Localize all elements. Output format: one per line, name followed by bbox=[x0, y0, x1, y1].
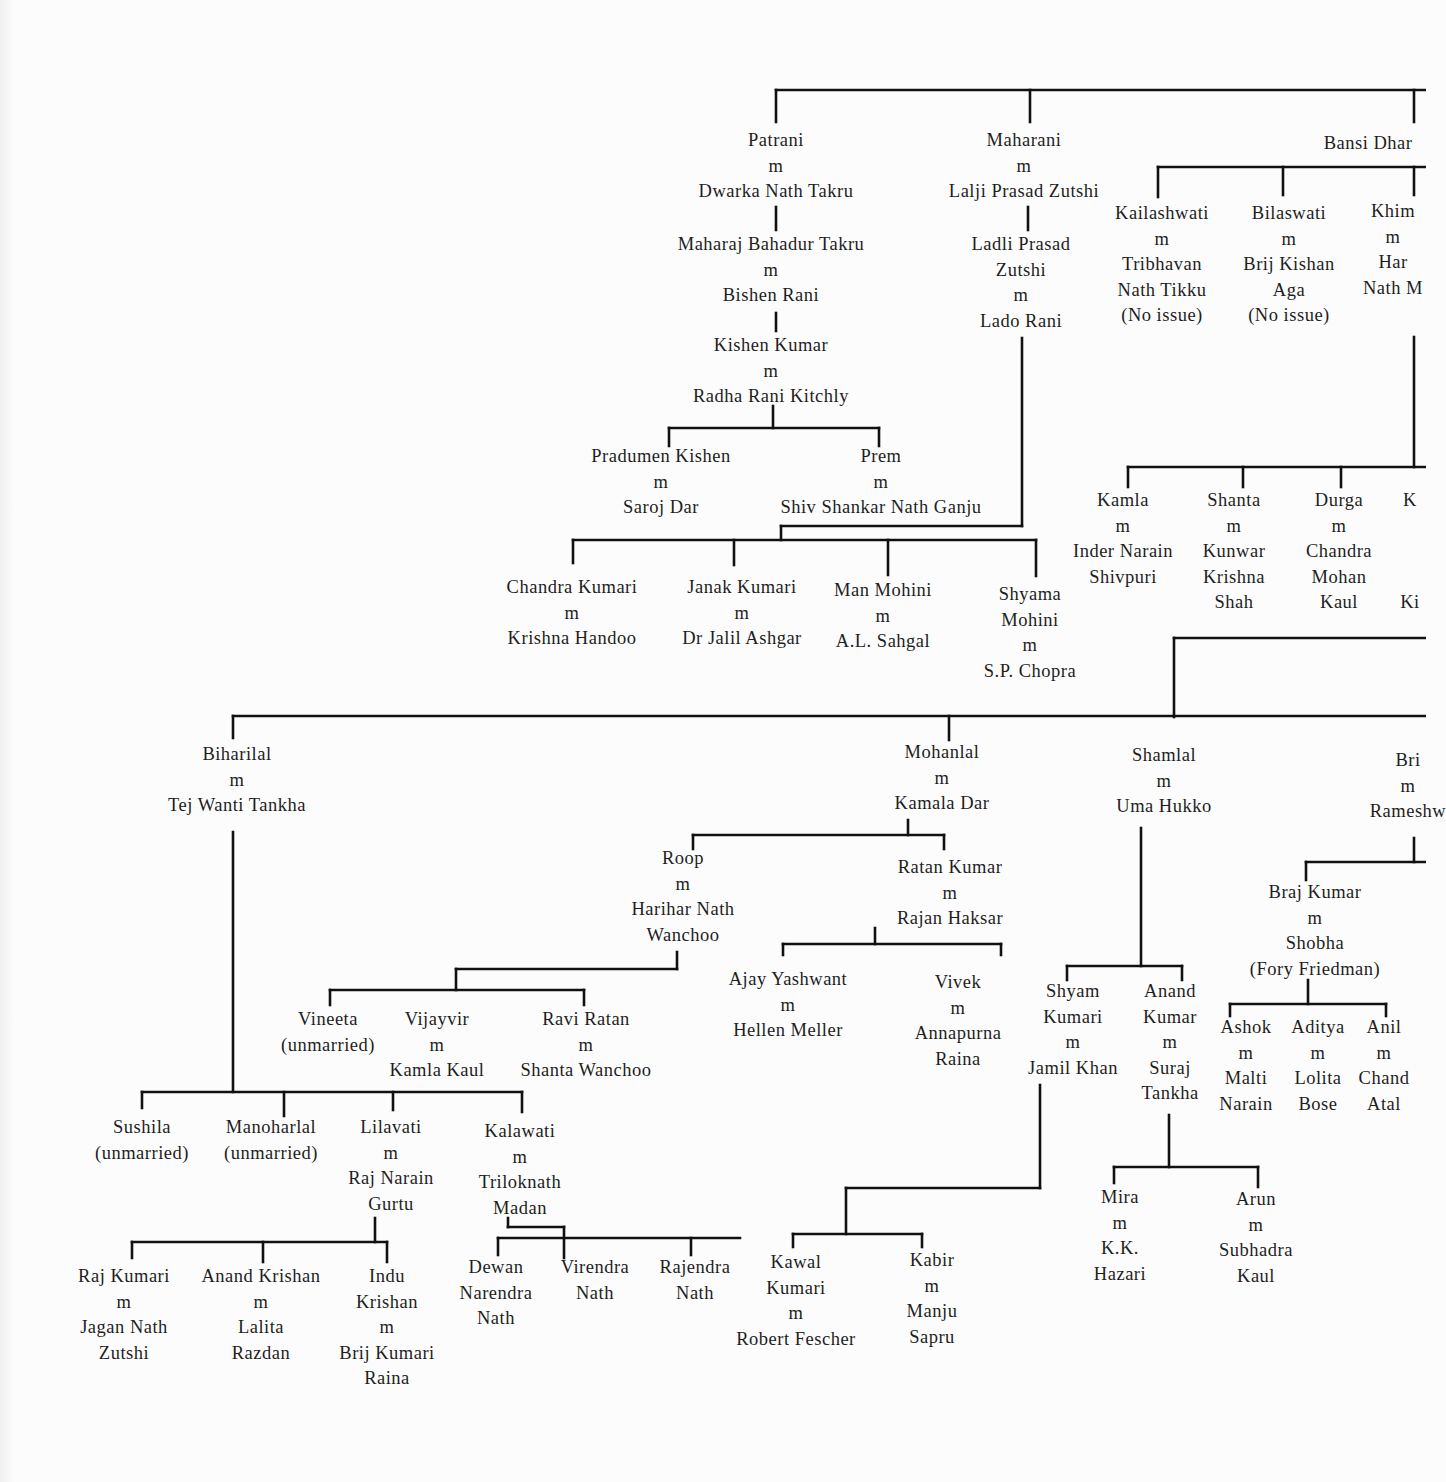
person-node-anand-kumar: AnandKumarmSurajTankha bbox=[1141, 979, 1198, 1107]
married-marker: m bbox=[1291, 1041, 1344, 1067]
person-name-line: Manoharlal bbox=[224, 1115, 318, 1141]
person-node-bilaswati: BilaswatimBrij KishanAga(No issue) bbox=[1243, 201, 1334, 329]
person-name-line: Aga bbox=[1243, 278, 1334, 304]
person-node-prem: PremmShiv Shankar Nath Ganju bbox=[780, 444, 981, 521]
person-name-line: Maharani bbox=[949, 128, 1099, 154]
person-name-line: S.P. Chopra bbox=[984, 659, 1076, 685]
person-name-line bbox=[1400, 565, 1420, 591]
person-name-line: Shyam bbox=[1028, 979, 1118, 1005]
married-marker: m bbox=[1073, 514, 1173, 540]
person-node-indu-krishan: InduKrishanmBrij KumariRaina bbox=[339, 1264, 434, 1392]
person-name-line: Jamil Khan bbox=[1028, 1056, 1118, 1082]
person-name-line: Lalita bbox=[201, 1315, 320, 1341]
person-name-line: Krishna bbox=[1203, 565, 1266, 591]
person-name-line: Rameshw bbox=[1370, 799, 1446, 825]
person-name-line: Kamla bbox=[1073, 488, 1173, 514]
person-name-line: Mohan bbox=[1306, 565, 1372, 591]
person-name-line: Nath bbox=[460, 1306, 533, 1332]
married-marker: m bbox=[682, 601, 802, 627]
married-marker: m bbox=[1219, 1041, 1272, 1067]
person-name-line bbox=[1400, 539, 1420, 565]
person-node-braj-kumar: Braj KumarmShobha(Fory Friedman) bbox=[1250, 880, 1380, 982]
person-name-line: Brij Kumari bbox=[339, 1341, 434, 1367]
person-name-line: Bishen Rani bbox=[678, 283, 865, 309]
person-name-line: (unmarried) bbox=[224, 1141, 318, 1167]
person-name-line: Kumari bbox=[736, 1276, 856, 1302]
person-node-shamlal: ShamlalmUma Hukko bbox=[1116, 743, 1211, 820]
married-marker: m bbox=[736, 1301, 856, 1327]
person-name-line: Vineeta bbox=[281, 1007, 375, 1033]
married-marker: m bbox=[1115, 227, 1209, 253]
person-name-line: Wanchoo bbox=[631, 923, 734, 949]
person-name-line: Braj Kumar bbox=[1250, 880, 1380, 906]
person-name-line bbox=[1400, 514, 1420, 540]
person-name-line: Zutshi bbox=[972, 258, 1071, 284]
person-node-bri-clipped: BrimRameshw bbox=[1370, 748, 1446, 825]
person-node-roop: RoopmHarihar NathWanchoo bbox=[631, 846, 734, 948]
person-name-line: Tej Wanti Tankha bbox=[168, 793, 306, 819]
married-marker: m bbox=[1306, 514, 1372, 540]
married-marker: m bbox=[834, 604, 932, 630]
person-name-line: Raj Kumari bbox=[78, 1264, 170, 1290]
person-name-line: Ki bbox=[1400, 590, 1420, 616]
person-name-line: Kumar bbox=[1141, 1005, 1198, 1031]
person-node-kishen-kumar: Kishen KumarmRadha Rani Kitchly bbox=[693, 333, 849, 410]
person-name-line: Kunwar bbox=[1203, 539, 1266, 565]
person-name-line: Prem bbox=[780, 444, 981, 470]
person-name-line: Kailashwati bbox=[1115, 201, 1209, 227]
person-node-arun: ArunmSubhadraKaul bbox=[1219, 1187, 1293, 1289]
person-node-virendra: VirendraNath bbox=[561, 1255, 630, 1306]
person-node-ratan-kumar: Ratan KumarmRajan Haksar bbox=[897, 855, 1003, 932]
married-marker: m bbox=[895, 766, 990, 792]
person-name-line: Shanta bbox=[1203, 488, 1266, 514]
married-marker: m bbox=[479, 1145, 561, 1171]
person-name-line: Kalawati bbox=[479, 1119, 561, 1145]
person-node-manoharlal: Manoharlal(unmarried) bbox=[224, 1115, 318, 1166]
person-name-line: Annapurna bbox=[915, 1021, 1002, 1047]
person-name-line: Janak Kumari bbox=[682, 575, 802, 601]
person-name-line: Saroj Dar bbox=[591, 495, 731, 521]
person-name-line: Mohini bbox=[984, 608, 1076, 634]
person-name-line: Chand bbox=[1359, 1066, 1410, 1092]
person-node-maharani: MaharanimLalji Prasad Zutshi bbox=[949, 128, 1099, 205]
person-name-line: Nath M bbox=[1363, 276, 1423, 302]
person-node-shyama-mohini: ShyamaMohinimS.P. Chopra bbox=[984, 582, 1076, 684]
person-name-line: Virendra bbox=[561, 1255, 630, 1281]
person-name-line: Bri bbox=[1370, 748, 1446, 774]
person-name-line: Shyama bbox=[984, 582, 1076, 608]
person-node-ajay-yashwant: Ajay YashwantmHellen Meller bbox=[729, 967, 848, 1044]
person-node-ravi-ratan: Ravi RatanmShanta Wanchoo bbox=[520, 1007, 651, 1084]
person-name-line: Aditya bbox=[1291, 1015, 1344, 1041]
person-name-line: Hellen Meller bbox=[729, 1018, 848, 1044]
person-node-pradumen: Pradumen KishenmSaroj Dar bbox=[591, 444, 731, 521]
person-name-line: Ajay Yashwant bbox=[729, 967, 848, 993]
person-node-durga: DurgamChandraMohanKaul bbox=[1306, 488, 1372, 616]
person-node-ashok: AshokmMaltiNarain bbox=[1219, 1015, 1272, 1117]
person-node-patrani: PatranimDwarka Nath Takru bbox=[699, 128, 854, 205]
married-marker: m bbox=[168, 768, 306, 794]
person-name-line: Kabir bbox=[907, 1248, 958, 1274]
person-node-dewan-narendra: DewanNarendraNath bbox=[460, 1255, 533, 1332]
person-node-k-clipped: K Ki bbox=[1400, 488, 1420, 616]
person-name-line: Anand Krishan bbox=[201, 1264, 320, 1290]
married-marker: m bbox=[78, 1290, 170, 1316]
married-marker: m bbox=[972, 283, 1071, 309]
person-name-line: Narain bbox=[1219, 1092, 1272, 1118]
person-node-janak-kumari: Janak KumarimDr Jalil Ashgar bbox=[682, 575, 802, 652]
person-name-line: Kamala Dar bbox=[895, 791, 990, 817]
person-node-sushila: Sushila(unmarried) bbox=[95, 1115, 189, 1166]
person-node-biharilal: BiharilalmTej Wanti Tankha bbox=[168, 742, 306, 819]
married-marker: m bbox=[1363, 225, 1423, 251]
person-name-line: Raj Narain bbox=[348, 1166, 434, 1192]
person-node-anand-krishan: Anand KrishanmLalitaRazdan bbox=[201, 1264, 320, 1366]
married-marker: m bbox=[390, 1033, 485, 1059]
person-name-line: Ladli Prasad bbox=[972, 232, 1071, 258]
person-name-line: (unmarried) bbox=[281, 1033, 375, 1059]
married-marker: m bbox=[1370, 774, 1446, 800]
person-name-line: Inder Narain bbox=[1073, 539, 1173, 565]
person-name-line: Shah bbox=[1203, 590, 1266, 616]
person-name-line: Kumari bbox=[1028, 1005, 1118, 1031]
person-name-line: Krishan bbox=[339, 1290, 434, 1316]
married-marker: m bbox=[949, 154, 1099, 180]
married-marker: m bbox=[678, 258, 865, 284]
